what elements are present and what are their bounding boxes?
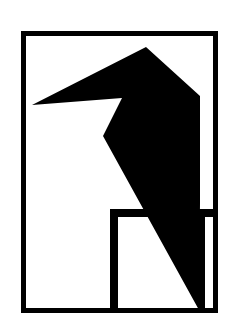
perch-left-post [110, 209, 118, 309]
bird-logo-illustration [0, 0, 237, 334]
perch-right-post [199, 209, 205, 309]
artwork-canvas: Index Pages [0, 0, 237, 334]
